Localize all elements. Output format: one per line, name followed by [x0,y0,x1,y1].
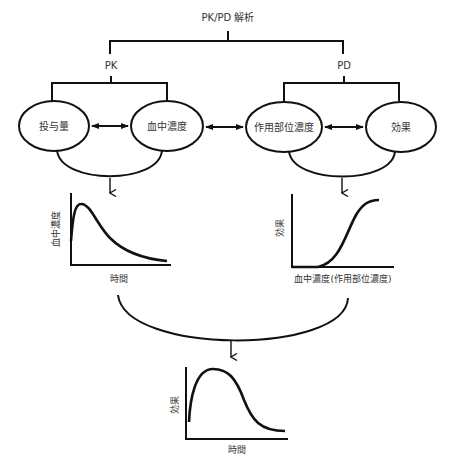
pk-bracket [52,76,167,101]
combine-arc [118,295,348,340]
node-site-concentration-label: 作用部位濃度 [254,121,314,133]
pd-chart-xlabel: 血中濃度(作用部位濃度) [294,273,391,284]
pd-chart-ylabel: 効果 [274,219,285,237]
pd-chart: 効果 血中濃度(作用部位濃度) [274,194,394,284]
pk-label: PK [105,60,118,71]
pk-chart: 血中濃度 時間 [50,193,171,284]
top-bracket [110,31,343,54]
pd-arc [289,151,395,177]
pd-label: PD [337,60,351,71]
node-blood-concentration-label: 血中濃度 [147,120,187,132]
pd-bracket [284,76,399,101]
pk-curve [71,204,167,261]
pk-chart-xlabel: 時間 [110,274,128,284]
node-dose: 投与量 [19,101,89,151]
pk-chart-ylabel: 血中濃度 [50,211,61,247]
pkpd-curve [189,369,285,431]
pkpd-chart-ylabel: 効果 [169,396,180,414]
pd-curve [292,200,379,267]
pkpd-chart: 効果 時間 [169,367,288,455]
pkpd-chart-xlabel: 時間 [228,445,246,455]
node-blood-concentration: 血中濃度 [131,101,203,151]
node-site-concentration: 作用部位濃度 [246,102,322,152]
node-effect-label: 効果 [391,121,411,133]
pkpd-diagram: PK/PD 解析 PK PD 投与量 血中濃度 作用部位濃度 効果 [0,0,455,468]
node-dose-label: 投与量 [39,120,69,132]
pk-arc [57,150,162,176]
node-effect: 効果 [366,102,436,152]
diagram-title: PK/PD 解析 [202,11,255,23]
